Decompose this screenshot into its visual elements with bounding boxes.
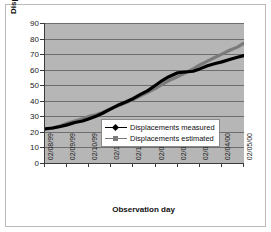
x-axis-ticks: 02/08/9902/09/9902/10/9902/11/9902/12/99… xyxy=(44,164,244,206)
series-line xyxy=(45,43,244,129)
x-tick-mark xyxy=(177,164,178,167)
y-axis-ticks: 0102030405060708090 xyxy=(0,14,44,172)
x-tick-mark xyxy=(221,164,222,167)
x-tick-mark xyxy=(132,164,133,167)
legend-key-estimated xyxy=(105,134,127,143)
x-tick-label: 02/05/00 xyxy=(246,133,254,169)
x-tick-label: 02/08/99 xyxy=(47,133,55,169)
x-tick-label: 02/10/99 xyxy=(91,133,99,169)
y-tick-label: 20 xyxy=(30,128,39,137)
legend-label-measured: Displacements measured xyxy=(130,123,215,132)
legend-label-estimated: Displacements estimated xyxy=(130,134,214,143)
legend-key-measured xyxy=(105,123,127,132)
x-tick-label: 02/04/00 xyxy=(224,133,232,169)
x-tick-mark xyxy=(243,164,244,167)
y-tick-label: 40 xyxy=(30,97,39,106)
y-tick-label: 10 xyxy=(30,143,39,152)
y-tick-label: 50 xyxy=(30,81,39,90)
x-tick-mark xyxy=(110,164,111,167)
diamond-marker-icon xyxy=(112,124,119,131)
y-tick-label: 0 xyxy=(35,159,39,168)
y-tick-label: 90 xyxy=(30,19,39,28)
x-tick-mark xyxy=(199,164,200,167)
y-tick-label: 70 xyxy=(30,50,39,59)
y-tick-label: 30 xyxy=(30,112,39,121)
x-tick-mark xyxy=(66,164,67,167)
chart-figure: Displacements ( mm/10 ) 0102030405060708… xyxy=(0,0,271,232)
x-tick-mark xyxy=(44,164,45,167)
x-tick-mark xyxy=(155,164,156,167)
x-tick-label: 02/09/99 xyxy=(69,133,77,169)
x-axis-title: Observation day xyxy=(44,205,243,214)
legend-item-measured: Displacements measured xyxy=(105,122,215,133)
x-tick-mark xyxy=(88,164,89,167)
y-tick-label: 60 xyxy=(30,66,39,75)
series-line xyxy=(45,56,244,129)
square-marker-icon xyxy=(113,136,118,141)
legend-item-estimated: Displacements estimated xyxy=(105,133,215,144)
chart-legend: Displacements measured Displacements est… xyxy=(101,119,220,147)
y-tick-label: 80 xyxy=(30,35,39,44)
